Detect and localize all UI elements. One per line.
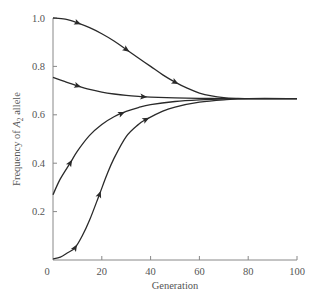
- x-tick-label: 60: [194, 266, 205, 277]
- series-curve: [53, 99, 297, 195]
- arrow-head-icon: [122, 45, 131, 54]
- curve-line: [53, 18, 297, 99]
- arrow-head-icon: [66, 158, 75, 167]
- x-tick-label: 0: [44, 266, 49, 277]
- y-tick-label: 0.6: [32, 109, 45, 120]
- allele-frequency-chart: 0204060801000.20.40.60.81.0 Generation F…: [0, 0, 316, 302]
- arrow-head-icon: [74, 82, 82, 90]
- x-tick-label: 20: [97, 266, 108, 277]
- curve-line: [53, 99, 297, 195]
- y-axis-label: Frequency of A2 allele: [11, 92, 25, 186]
- series-curve: [53, 18, 297, 99]
- x-tick-label: 80: [243, 266, 254, 277]
- arrow-head-icon: [142, 115, 151, 123]
- x-tick-label: 100: [289, 266, 305, 277]
- y-tick-label: 1.0: [32, 13, 45, 24]
- arrow-head-icon: [74, 19, 83, 27]
- curve-line: [53, 98, 297, 258]
- y-tick-label: 0.8: [32, 61, 45, 72]
- x-tick-label: 40: [145, 266, 156, 277]
- x-axis-label: Generation: [152, 280, 199, 291]
- axes: 0204060801000.20.40.60.81.0: [32, 13, 305, 278]
- y-tick-label: 0.2: [32, 206, 45, 217]
- arrow-head-icon: [117, 109, 126, 117]
- series-curve: [53, 98, 297, 258]
- curves: [53, 18, 297, 259]
- arrow-head-icon: [171, 78, 180, 86]
- arrow-head-icon: [95, 190, 103, 199]
- y-tick-label: 0.4: [32, 158, 46, 169]
